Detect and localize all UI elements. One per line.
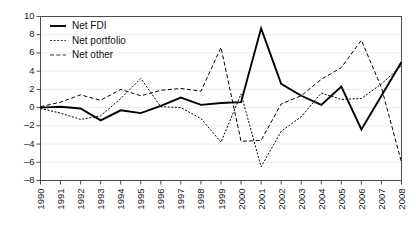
- y-axis-tick-labels: –8–6–4–20246810: [24, 10, 35, 185]
- y-axis-tick-label: –6: [24, 156, 35, 167]
- legend-label-net-other: Net other: [72, 49, 114, 60]
- y-axis-tick-label: –4: [24, 138, 35, 149]
- x-axis-tick-label: 2006: [356, 189, 367, 210]
- y-axis-ticks: [37, 17, 41, 181]
- x-axis-tick-label: 1997: [175, 189, 186, 210]
- x-axis-tick-label: 2002: [276, 189, 287, 210]
- x-axis-tick-label: 1996: [155, 189, 166, 210]
- x-axis-tick-labels: 1990199119921993199419951996199719981999…: [35, 189, 407, 210]
- y-axis-tick-label: –8: [24, 174, 35, 185]
- x-axis-tick-label: 2000: [236, 189, 247, 210]
- y-axis-tick-label: 2: [29, 83, 34, 94]
- x-axis-tick-label: 1998: [195, 189, 206, 210]
- x-axis-ticks: [41, 181, 402, 185]
- y-axis-tick-label: 4: [29, 65, 34, 76]
- x-axis-tick-label: 1993: [95, 189, 106, 210]
- x-axis-tick-label: 2005: [336, 189, 347, 210]
- legend-label-net-fdi: Net FDI: [72, 20, 106, 31]
- y-axis-tick-label: 8: [29, 28, 34, 39]
- y-axis-tick-label: 10: [24, 10, 35, 21]
- x-axis-tick-label: 2004: [316, 189, 327, 210]
- legend-label-net-portfolio: Net portfolio: [72, 35, 126, 46]
- x-axis-tick-label: 1999: [216, 189, 227, 210]
- chart-figure: –8–6–4–20246810 199019911992199319941995…: [0, 0, 418, 235]
- chart-legend: Net FDINet portfolioNet other: [50, 20, 126, 60]
- x-axis-tick-label: 1990: [35, 189, 46, 210]
- x-axis-tick-label: 2007: [376, 189, 387, 210]
- y-axis-tick-label: 6: [29, 46, 34, 57]
- x-axis-tick-label: 2001: [256, 189, 267, 210]
- y-axis-tick-label: 0: [29, 101, 34, 112]
- x-axis-tick-label: 1992: [75, 189, 86, 210]
- x-axis-tick-label: 2008: [396, 189, 407, 210]
- x-axis-tick-label: 1991: [55, 189, 66, 210]
- y-axis-tick-label: –2: [24, 119, 35, 130]
- x-axis-tick-label: 1994: [115, 189, 126, 210]
- line-chart-canvas: –8–6–4–20246810 199019911992199319941995…: [0, 0, 418, 235]
- x-axis-tick-label: 2003: [296, 189, 307, 210]
- x-axis-tick-label: 1995: [135, 189, 146, 210]
